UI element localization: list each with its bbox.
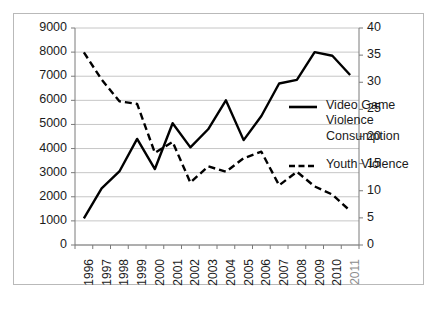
left-axis-tick-label: 1000 — [14, 214, 67, 227]
left-axis-tick-label: 3000 — [14, 166, 67, 179]
left-axis-tick-label: 5000 — [14, 117, 67, 130]
right-axis-tick-label: 5 — [367, 211, 401, 224]
left-axis-tick-label: 2000 — [14, 190, 67, 203]
right-axis-tick-label: 10 — [367, 184, 401, 197]
right-axis-tick-label: 20 — [367, 130, 401, 143]
figure-caption — [13, 299, 424, 313]
left-axis-tick-label: 7000 — [14, 69, 67, 82]
left-axis-tick-label: 6000 — [14, 93, 67, 106]
right-axis-tick-label: 35 — [367, 48, 401, 61]
chart-legend: Video Game Violence Consumption Youth Vi… — [288, 98, 423, 185]
legend-item-youth-violence: Youth Violence — [288, 157, 423, 172]
left-axis-tick-label: 9000 — [14, 21, 67, 34]
left-axis-tick-label: 4000 — [14, 142, 67, 155]
right-axis-tick-label: 40 — [367, 21, 401, 34]
figure: Video Game Violence Consumption Youth Vi… — [0, 0, 440, 318]
legend-item-video-game-violence-consumption: Video Game Violence Consumption — [288, 98, 423, 144]
right-axis-tick-label: 30 — [367, 75, 401, 88]
legend-dashed-line-icon — [288, 160, 318, 172]
right-axis-tick-label: 15 — [367, 157, 401, 170]
right-axis-tick-label: 25 — [367, 102, 401, 115]
chart-frame: Video Game Violence Consumption Youth Vi… — [13, 13, 424, 285]
right-axis-tick-label: 0 — [367, 238, 401, 251]
legend-solid-line-icon — [288, 101, 318, 113]
left-axis-tick-label: 0 — [14, 238, 67, 251]
left-axis-tick-label: 8000 — [14, 45, 67, 58]
